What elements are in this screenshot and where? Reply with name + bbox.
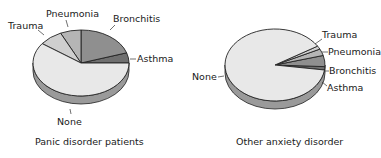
label-pneumonia-right: Pneumonia bbox=[328, 46, 381, 57]
label-trauma-right: Trauma bbox=[321, 29, 357, 40]
label-asthma-left: Asthma bbox=[137, 53, 173, 64]
label-bronchitis-left: Bronchitis bbox=[113, 13, 160, 24]
label-none-left: None bbox=[57, 116, 82, 127]
label-pneumonia-left: Pneumonia bbox=[46, 8, 99, 19]
label-asthma-right: Asthma bbox=[327, 82, 363, 93]
caption-right: Other anxiety disorder bbox=[236, 136, 343, 147]
pie-charts: Trauma Pneumonia Bronchitis Asthma None … bbox=[0, 0, 381, 158]
label-none-right: None bbox=[192, 71, 217, 82]
label-trauma-left: Trauma bbox=[7, 20, 43, 31]
caption-left: Panic disorder patients bbox=[35, 136, 144, 147]
label-bronchitis-right: Bronchitis bbox=[329, 65, 376, 76]
pie-chart-other-anxiety bbox=[225, 29, 325, 109]
pie-chart-panic-disorder bbox=[33, 30, 129, 104]
